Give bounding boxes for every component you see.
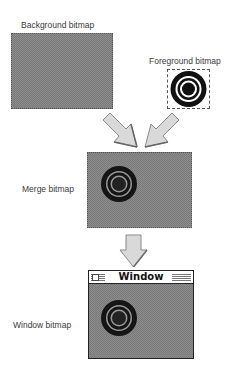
window-content	[89, 284, 193, 358]
background-bitmap-label: Background bitmap	[21, 20, 94, 30]
window-title-text: Window	[116, 271, 167, 282]
merge-bitmap-label: Merge bitmap	[22, 184, 74, 194]
background-bitmap	[11, 33, 113, 109]
target-icon	[100, 299, 140, 339]
window-title-bar[interactable]: Window	[89, 271, 193, 284]
arrow-down-right-icon	[101, 111, 141, 151]
merge-bitmap	[87, 152, 192, 228]
window-bitmap: Window	[88, 270, 194, 359]
target-icon	[100, 165, 140, 205]
window-bitmap-label: Window bitmap	[13, 320, 71, 330]
foreground-bitmap	[167, 69, 210, 109]
window-title: Window	[89, 271, 193, 283]
arrow-down-left-icon	[141, 111, 181, 151]
arrow-down-icon	[117, 233, 149, 269]
foreground-bitmap-label: Foreground bitmap	[149, 56, 221, 66]
target-icon	[167, 69, 210, 109]
